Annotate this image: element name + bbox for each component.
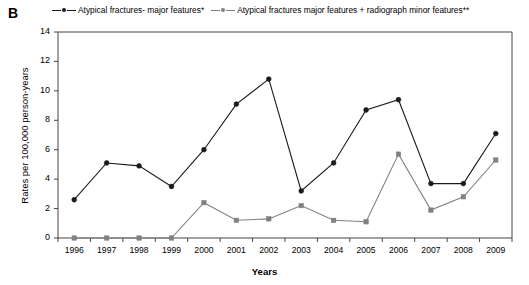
- series-marker: [72, 197, 77, 202]
- series-marker: [429, 208, 433, 212]
- series-marker: [461, 195, 465, 199]
- y-tick-label: 8: [28, 115, 50, 124]
- y-tick-label: 14: [28, 27, 50, 36]
- y-tick-label: 2: [28, 204, 50, 213]
- series-marker: [266, 77, 271, 82]
- series-marker: [72, 236, 76, 240]
- y-tick-label: 10: [28, 86, 50, 95]
- series-marker: [364, 220, 368, 224]
- y-tick-label: 6: [28, 145, 50, 154]
- y-tick-label: 12: [28, 56, 50, 65]
- series-marker: [396, 97, 401, 102]
- series-marker: [234, 218, 238, 222]
- x-axis-title: Years: [0, 266, 529, 277]
- series-marker: [461, 181, 466, 186]
- series-marker: [396, 152, 400, 156]
- series-marker: [169, 236, 173, 240]
- series-marker: [267, 217, 271, 221]
- series-marker: [299, 203, 303, 207]
- chart-canvas: [0, 0, 529, 285]
- series-marker: [137, 164, 142, 169]
- series-marker: [202, 200, 206, 204]
- y-axis-title: Rates per 100,000 person-years: [19, 41, 30, 231]
- y-tick-label: 0: [28, 233, 50, 242]
- series-marker: [331, 161, 336, 166]
- x-tick-label: 2009: [476, 246, 516, 255]
- series-marker: [429, 181, 434, 186]
- series-marker: [299, 189, 304, 194]
- series-marker: [169, 184, 174, 189]
- series-marker: [104, 236, 108, 240]
- series-marker: [137, 236, 141, 240]
- series-marker: [493, 131, 498, 136]
- series-marker: [104, 161, 109, 166]
- series-marker: [494, 158, 498, 162]
- series-marker: [331, 218, 335, 222]
- series-marker: [364, 108, 369, 113]
- plot-area: Rates per 100,000 person-years Years 024…: [0, 0, 529, 285]
- y-tick-label: 4: [28, 174, 50, 183]
- series-marker: [202, 147, 207, 152]
- series-marker: [234, 102, 239, 107]
- figure-panel-b: B Atypical fractures- major features* At…: [0, 0, 529, 285]
